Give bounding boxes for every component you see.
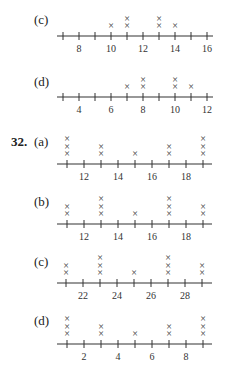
tick-label: 14 [113,171,123,182]
dot-plot-32a: 32. (a) 12141618××××××××××× [0,130,234,190]
dot-plot-32c: (c) 22242628××××××××××× [0,250,234,308]
dot-plot-svg: 810121416×××××× [0,0,234,65]
data-marker: × [140,74,146,85]
data-marker: × [97,252,103,263]
tick-label: 2 [82,351,87,362]
tick-label: 14 [113,231,123,242]
data-marker: × [132,328,138,339]
dot-plot-svg: 12141618××××××××××× [0,190,234,250]
tick-label: 12 [79,171,89,182]
tick-label: 14 [170,43,180,54]
dot-plot-svg: 4681012×××××× [0,65,234,130]
dot-plot-prev-c: (c) 810121416×××××× [0,0,234,65]
data-marker: × [64,313,70,324]
data-marker: × [172,74,178,85]
tick-label: 28 [180,290,190,301]
tick-label: 4 [77,104,82,115]
data-marker: × [131,267,137,278]
tick-label: 12 [202,104,212,115]
data-marker: × [108,20,114,31]
data-marker: × [64,201,70,212]
data-marker: × [199,260,205,271]
dot-plot-svg: 12141618××××××××××× [0,130,234,190]
dot-plot-svg: 22242628××××××××××× [0,250,234,308]
tick-label: 16 [147,171,157,182]
data-marker: × [98,141,104,152]
data-marker: × [188,81,194,92]
tick-label: 16 [147,231,157,242]
data-marker: × [166,193,172,204]
data-marker: × [132,148,138,159]
tick-label: 12 [79,231,89,242]
tick-label: 8 [77,43,82,54]
data-marker: × [200,133,206,144]
tick-label: 4 [116,351,121,362]
data-marker: × [165,252,171,263]
data-marker: × [64,133,70,144]
dot-plot-prev-d: (d) 4681012×××××× [0,65,234,130]
data-marker: × [166,141,172,152]
dot-plot-32d: (d) 2468××××××××××× [0,305,234,374]
tick-label: 8 [141,104,146,115]
tick-label: 6 [150,351,155,362]
dot-plot-svg: 2468××××××××××× [0,305,234,374]
tick-label: 8 [184,351,189,362]
data-marker: × [63,260,69,271]
data-marker: × [124,13,130,24]
data-marker: × [98,193,104,204]
tick-label: 18 [181,171,191,182]
tick-label: 18 [181,231,191,242]
data-marker: × [200,313,206,324]
tick-label: 24 [112,290,122,301]
tick-label: 16 [202,43,212,54]
data-marker: × [132,208,138,219]
data-marker: × [156,13,162,24]
data-marker: × [166,321,172,332]
data-marker: × [98,321,104,332]
data-marker: × [200,201,206,212]
tick-label: 22 [78,290,88,301]
tick-label: 6 [109,104,114,115]
data-marker: × [172,20,178,31]
tick-label: 10 [106,43,116,54]
dot-plot-32b: (b) 12141618××××××××××× [0,190,234,250]
tick-label: 12 [138,43,148,54]
data-marker: × [124,81,130,92]
tick-label: 10 [170,104,180,115]
tick-label: 26 [146,290,156,301]
